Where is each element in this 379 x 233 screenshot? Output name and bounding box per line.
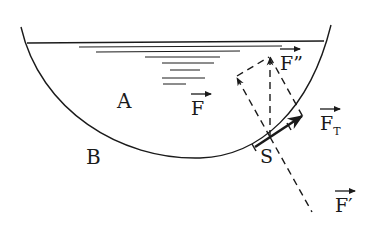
vector-arrow-icon xyxy=(320,105,342,113)
subscript-t: T xyxy=(333,125,340,138)
vector-arrow-icon xyxy=(335,187,357,195)
vector-f-prime-label: F′ xyxy=(335,196,353,215)
prime-mark: ′ xyxy=(348,194,352,216)
liquid-hatching xyxy=(79,46,282,84)
vector-f-prime-text: F xyxy=(335,194,348,216)
vector-f-prime-line xyxy=(270,137,312,212)
region-a-label: A xyxy=(117,91,131,111)
region-b-label: B xyxy=(86,147,101,167)
vector-arrow-icon xyxy=(280,45,302,53)
vector-f-text: F xyxy=(191,97,204,119)
vector-f-t-label: FT xyxy=(320,114,341,133)
point-s-label: S xyxy=(260,147,273,166)
double-prime-mark: ” xyxy=(293,52,303,74)
vector-f-t-line xyxy=(255,116,302,147)
capillarity-force-diagram: A B S F F” FT F′ xyxy=(0,0,379,233)
vector-arrow-icon xyxy=(191,90,213,98)
vector-f-t-text: F xyxy=(320,112,333,134)
parallelogram-edge-top xyxy=(237,57,269,76)
vector-f-label: F xyxy=(191,99,204,118)
liquid-surface xyxy=(27,41,324,43)
vector-f-double-prime-text: F xyxy=(280,52,293,74)
vector-f-line xyxy=(237,78,270,137)
vector-f-double-prime-label: F” xyxy=(280,54,303,73)
